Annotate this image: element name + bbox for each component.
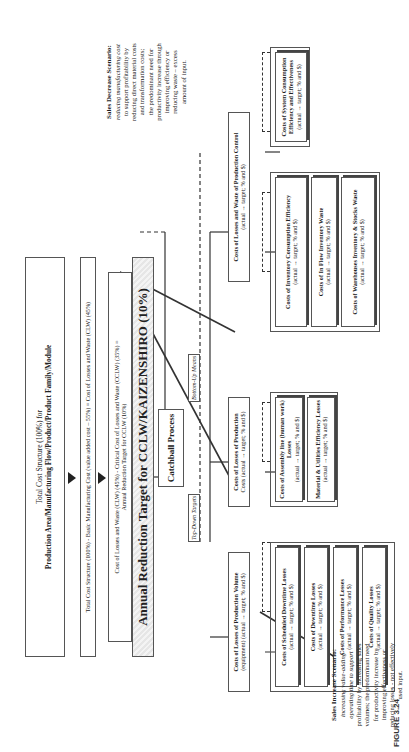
basic-manufacturing-cost-box: Total Cost Structure (100%) - Basic Manu… [80, 257, 96, 657]
category-title: Costs of Losses of Production Volume [232, 572, 239, 671]
scenario-line: increasing value-adding [339, 653, 346, 717]
dashed-feedback-group [262, 192, 270, 272]
diagram-canvas: Total Cost Structure (100%) for Producti… [0, 0, 409, 752]
category-title: Costs of Losses and Waste of Production … [232, 133, 239, 262]
total-cost-line2: Production Area/Manufacturing Flow/Produ… [45, 345, 54, 570]
category-sub: (equipment) (actual → target; % and $) [239, 573, 246, 670]
sub-item-title: Costs of Assembly line (human work) Loss… [278, 398, 292, 501]
dashed-feedback-group [262, 542, 270, 612]
category-sub: (actual → target; % and $) [239, 164, 246, 230]
sub-item: Costs of Scheduled Downtime Losses (actu… [275, 547, 299, 687]
sub-item-sub: (actual → target; % and $) [295, 64, 302, 130]
total-cost-structure-box: Total Cost Structure (100%) for Producti… [25, 257, 65, 657]
category-production-losses: Costs of Losses of Production Costs (act… [228, 397, 250, 507]
category-production-control: Costs of Losses and Waste of Production … [228, 112, 250, 282]
sub-item-title: Costs of System Consumption Efficiency a… [280, 53, 294, 141]
subgroup-production-losses: Costs of Assembly line (human work) Loss… [270, 392, 338, 507]
sub-item-sub: (actual → target; % and $) [316, 584, 323, 650]
sub-item-title: Material & Utilities Efficiency Losses [314, 400, 321, 499]
bottom-up-label: Bottom-Up Means [191, 356, 198, 400]
arrow-down-icon [68, 472, 76, 484]
critical-cost-line1: Cost of Losses and Waste (CLW) (45%) - C… [113, 341, 120, 574]
sales-decrease-scenario: Sales Decrease Scenario: reducing manufa… [105, 12, 188, 152]
sub-item-title: Costs of Scheduled Downtime Losses [280, 568, 287, 665]
sub-item: Costs of Inventory Consumption Efficienc… [275, 177, 307, 327]
scenario-line: productivity increase through [155, 12, 163, 152]
sub-item: Costs of Warehouses Inventory & Stocks W… [341, 177, 375, 327]
sub-item-title: Costs of In Flow Inventory Waste [317, 208, 324, 296]
dashed-feedback-group [262, 52, 270, 132]
category-production-volume: Costs of Losses of Production Volume (eq… [228, 552, 250, 692]
sub-item-sub: (actual → target; % and $) [321, 417, 328, 483]
arrow-down-icon [98, 472, 106, 484]
sub-item: Costs of In Flow Inventory Waste (actual… [311, 177, 337, 327]
bottom-up-means-box: Bottom-Up Means [188, 354, 200, 402]
catchball-process-box: Catchball Process [158, 409, 184, 487]
category-title: Costs of Losses of Production [232, 413, 239, 491]
scenario-line: amount of input. [180, 12, 188, 152]
sub-item: Costs of Assembly line (human work) Loss… [275, 397, 303, 502]
sub-item: Costs of Downtime Losses (actual → targe… [304, 547, 328, 687]
scenario-line: volumes; the predominant need [363, 620, 371, 750]
scenario-line: operating time to support [347, 651, 354, 718]
scenario-line: reducing manufacturing cost [114, 44, 121, 120]
figure-label: FIGURE 3.24 [392, 699, 401, 747]
scenario-title: Sales Increase Scenario: [330, 649, 338, 721]
critical-cost-line2: Annual Reduction Target for CCLW (10%) [120, 404, 127, 511]
scenario-line: reducing waste – excess [171, 12, 179, 152]
scenario-line: and transformation costs; [138, 12, 146, 152]
catchball-title: Catchball Process [166, 414, 176, 483]
dashed-feedback-group [262, 402, 270, 462]
scenario-line: reducing direct material costs [130, 12, 138, 152]
scenario-line: to support profitability by [122, 12, 130, 152]
sub-item-sub: (actual → target; % and $) [358, 219, 365, 285]
sub-item-sub: (actual → target; % and $) [293, 417, 300, 483]
scenario-title: Sales Decrease Scenario: [105, 45, 113, 119]
scenario-line: for productivity increase by [372, 620, 380, 750]
annual-target-text: Annual Reduction Target for CCLW/KAIZENS… [136, 288, 151, 626]
subgroup-system-consumption: Costs of System Consumption Efficiency a… [270, 47, 310, 147]
sub-item-sub: (actual → target; % and $) [291, 219, 298, 285]
sub-item-title: Costs of Downtime Losses [309, 583, 316, 652]
top-down-label: Top-Down Targets [191, 496, 198, 540]
basic-cost-text: Total Cost Structure (100%) - Basic Manu… [84, 302, 91, 612]
scenario-line: the predominant need for [147, 12, 155, 152]
subgroup-production-control: Costs of Inventory Consumption Efficienc… [270, 172, 380, 332]
category-sub: Costs (actual → target; % and $) [239, 412, 246, 493]
sub-item-sub: (actual → target; % and $) [324, 219, 331, 285]
scenario-line: improving efficiency or [163, 12, 171, 152]
top-down-targets-box: Top-Down Targets [188, 494, 200, 542]
sub-item-title: Costs of Inventory Consumption Efficienc… [284, 195, 291, 309]
critical-cost-box: Cost of Losses and Waste (CLW) (45%) - C… [108, 272, 132, 642]
sub-item-sub: (actual → target; % and $) [287, 584, 294, 650]
sub-item: Costs of System Consumption Efficiency a… [275, 52, 307, 142]
sub-item-title: Costs of Warehouses Inventory & Stocks W… [351, 189, 358, 314]
scenario-line: profitability by increasing sales [355, 620, 363, 750]
annual-reduction-target-box: Annual Reduction Target for CCLW/KAIZENS… [132, 257, 154, 657]
scenario-line: improving effectiveness or [380, 620, 388, 750]
sub-item: Material & Utilities Efficiency Losses (… [307, 397, 335, 502]
